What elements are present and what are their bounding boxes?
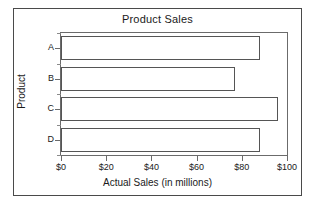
y-ticklabel-2: C — [40, 104, 54, 113]
plot-area — [61, 33, 287, 155]
bar-category-3 — [61, 128, 260, 152]
y-ticklabel-wrap-1: B — [26, 74, 54, 83]
x-axis-title: Actual Sales (in millions) — [13, 177, 302, 188]
chart-figure: Product Sales A B C D — [0, 0, 315, 208]
x-tick-3 — [197, 156, 198, 161]
y-axis-title: Product — [16, 52, 27, 132]
x-ticklabel-1: $20 — [86, 162, 126, 172]
y-tick-3 — [55, 140, 61, 141]
bar-category-0 — [61, 36, 260, 60]
x-ticklabel-4: $80 — [222, 162, 262, 172]
x-ticklabel-2: $40 — [131, 162, 171, 172]
y-ticklabel-3: D — [40, 135, 54, 144]
y-ticklabel-1: B — [40, 74, 54, 83]
y-ticklabel-wrap-0: A — [26, 43, 54, 52]
y-ticklabel-0: A — [40, 43, 54, 52]
y-minor-tick-0 — [57, 33, 61, 34]
bar-category-2 — [61, 97, 278, 121]
y-ticklabel-wrap-2: C — [26, 104, 54, 113]
y-tick-1 — [55, 79, 61, 80]
x-tick-0 — [61, 156, 62, 161]
x-tick-5 — [287, 156, 288, 161]
bar-category-1 — [61, 67, 235, 91]
y-ticklabel-wrap-3: D — [26, 135, 54, 144]
y-tick-0 — [55, 48, 61, 49]
y-minor-tick-1 — [57, 64, 61, 65]
x-tick-2 — [151, 156, 152, 161]
x-ticklabel-5: $100 — [267, 162, 307, 172]
x-ticklabel-3: $60 — [177, 162, 217, 172]
x-tick-4 — [242, 156, 243, 161]
chart-title: Product Sales — [13, 13, 302, 25]
y-tick-2 — [55, 109, 61, 110]
y-minor-tick-2 — [57, 94, 61, 95]
x-ticklabel-0: $0 — [41, 162, 81, 172]
y-minor-tick-3 — [57, 125, 61, 126]
x-tick-1 — [106, 156, 107, 161]
